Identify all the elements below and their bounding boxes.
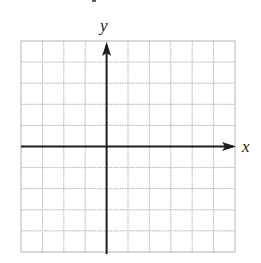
x-axis-label: x (242, 138, 250, 155)
coordinate-grid-svg (0, 0, 261, 263)
coordinate-plane: y x (0, 0, 261, 263)
y-axis-label: y (100, 17, 108, 34)
cropped-text-fragment (92, 0, 96, 2)
